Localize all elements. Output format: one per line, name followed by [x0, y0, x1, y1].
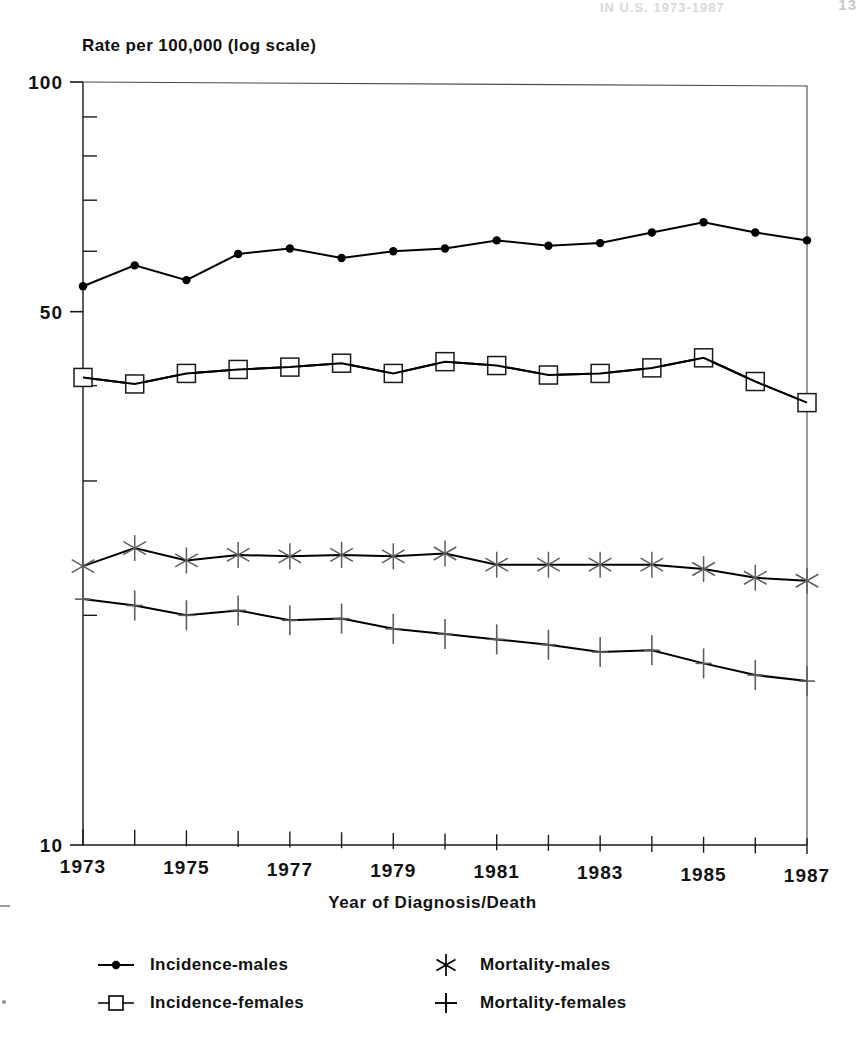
series-mortality-females	[75, 584, 815, 696]
y-tick-label: 10	[40, 835, 63, 856]
series-incidence-males	[79, 218, 811, 290]
legend-label: Incidence-females	[150, 993, 304, 1013]
filled-circle-icon	[96, 952, 136, 978]
legend-item-incidence-females[interactable]: Incidence-females	[96, 990, 426, 1016]
legend-label: Mortality-females	[480, 993, 627, 1013]
legend-label: Mortality-males	[480, 955, 611, 975]
x-tick-label: 1981	[474, 861, 520, 882]
x-tick-label: 1983	[577, 862, 623, 883]
y-tick-label: 50	[40, 302, 63, 323]
x-tick-label: 1975	[163, 857, 209, 878]
open-square-icon	[96, 990, 136, 1016]
x-tick-label: 1973	[60, 856, 106, 877]
y-tick-label: 100	[28, 72, 63, 93]
x-axis-title: Year of Diagnosis/Death	[0, 893, 865, 913]
x-tick-label: 1977	[267, 859, 313, 880]
legend-item-mortality-males[interactable]: Mortality-males	[426, 952, 756, 978]
plus-icon	[426, 990, 466, 1016]
x-tick-label: 1987	[784, 865, 830, 886]
page-edge-mark	[0, 905, 10, 907]
series-mortality-males	[72, 535, 819, 594]
line-chart: 105010019731975197719791981198319851987	[0, 0, 865, 900]
chart-legend: Incidence-males Mortality-males Incidenc…	[96, 946, 836, 1022]
x-tick-label: 1979	[370, 860, 416, 881]
legend-item-mortality-females[interactable]: Mortality-females	[426, 990, 756, 1016]
series-incidence-females	[74, 349, 816, 412]
page-edge-dot	[2, 1000, 6, 1004]
chart-page: IN U.S. 1973-1987 13 Rate per 100,000 (l…	[0, 0, 865, 1055]
legend-item-incidence-males[interactable]: Incidence-males	[96, 952, 426, 978]
asterisk-icon	[426, 952, 466, 978]
x-tick-label: 1985	[680, 864, 726, 885]
legend-label: Incidence-males	[150, 955, 288, 975]
